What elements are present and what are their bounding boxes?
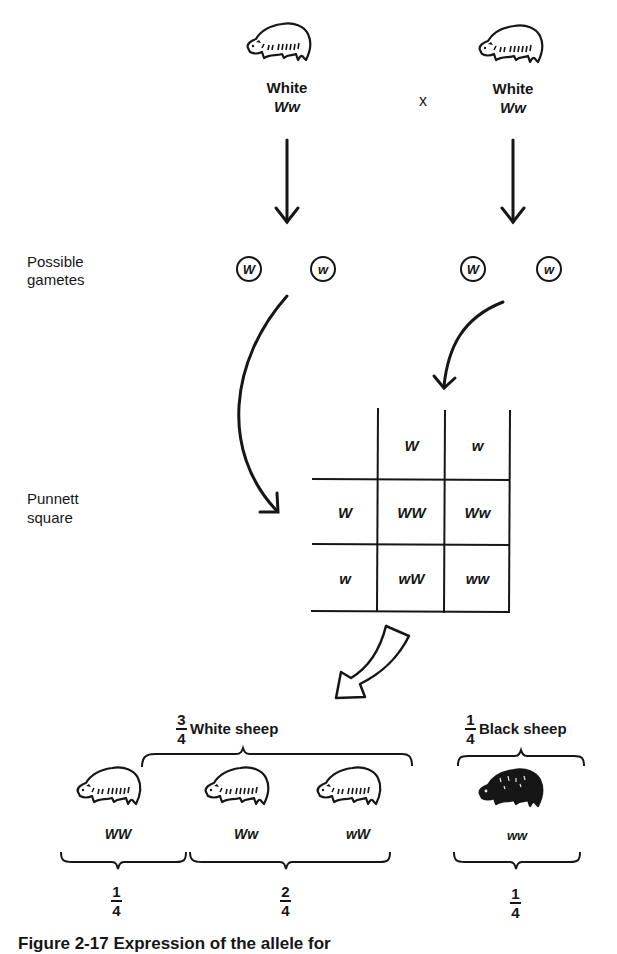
gamete-left-W: W	[236, 256, 262, 282]
offspring-sheep-WW-icon	[78, 767, 141, 804]
offspring-genotype-4: ww	[487, 828, 547, 843]
figure-caption: Figure 2-17 Expression of the allele for	[18, 934, 331, 954]
black-sheep-label: Black sheep	[479, 720, 567, 738]
ratio-3-num: 1	[511, 886, 519, 901]
down-arrow-right-icon	[502, 140, 524, 222]
down-arrow-left-icon	[276, 140, 298, 222]
punnett-row-header-1: W	[312, 480, 378, 545]
parent-left-phenotype: White	[247, 79, 327, 97]
punnett-label-line1: Punnett	[27, 490, 79, 508]
parent-sheep-left-icon	[248, 23, 311, 60]
gamete-right-W: W	[460, 256, 486, 282]
punnett-cell-1-2: Ww	[445, 480, 510, 545]
gametes-label-line1: Possible	[27, 253, 84, 271]
ratio-1-den: 4	[112, 903, 120, 918]
punnett-label-line2: square	[27, 509, 73, 527]
black-fraction-num: 1	[466, 712, 474, 727]
black-group-brace	[458, 750, 584, 766]
offspring-sheep-wW-icon	[318, 767, 381, 804]
curved-arrow-right-icon	[434, 302, 503, 388]
ratio-brace-2	[190, 852, 390, 869]
ratio-brace-1	[61, 852, 186, 869]
ratio-2-den: 4	[281, 903, 289, 918]
white-fraction-num: 3	[177, 712, 185, 727]
offspring-sheep-ww-icon	[480, 769, 543, 806]
white-sheep-heading: 3 4 White sheep	[176, 712, 278, 746]
punnett-col-header-2: w	[445, 410, 510, 480]
parent-left-genotype: Ww	[247, 98, 327, 115]
curved-arrow-left-icon	[239, 296, 287, 512]
cross-symbol: x	[415, 92, 431, 110]
black-fraction-den: 4	[466, 731, 474, 746]
parent-sheep-right-icon	[480, 25, 543, 62]
white-fraction-den: 4	[177, 731, 185, 746]
ratio-2: 2 4	[280, 884, 291, 918]
ratio-1: 1 4	[111, 884, 122, 918]
punnett-cell-1-1: WW	[378, 480, 445, 545]
black-sheep-heading: 1 4 Black sheep	[465, 712, 567, 746]
offspring-genotype-3: wW	[328, 826, 388, 842]
white-group-brace	[142, 748, 412, 767]
punnett-row-header-2: w	[312, 545, 378, 612]
parent-right-genotype: Ww	[473, 99, 553, 116]
gamete-left-w: w	[310, 256, 336, 282]
offspring-genotype-2: Ww	[216, 826, 276, 842]
offspring-sheep-Ww-icon	[206, 767, 269, 804]
ratio-3-den: 4	[511, 905, 519, 920]
parent-right-phenotype: White	[473, 80, 553, 98]
white-fraction: 3 4	[176, 712, 187, 746]
gamete-right-w: w	[536, 256, 562, 282]
offspring-genotype-1: WW	[88, 826, 148, 842]
gametes-label-line2: gametes	[27, 271, 85, 289]
ratio-brace-3	[454, 852, 580, 869]
punnett-col-header-1: W	[378, 410, 445, 480]
ratio-3: 1 4	[510, 886, 521, 920]
punnett-cell-2-1: wW	[378, 545, 445, 612]
ratio-1-num: 1	[112, 884, 120, 899]
black-fraction: 1 4	[465, 712, 476, 746]
white-sheep-label: White sheep	[190, 720, 278, 738]
punnett-cell-2-2: ww	[445, 545, 510, 612]
ratio-2-num: 2	[281, 884, 289, 899]
hollow-arrow-icon	[336, 626, 409, 698]
